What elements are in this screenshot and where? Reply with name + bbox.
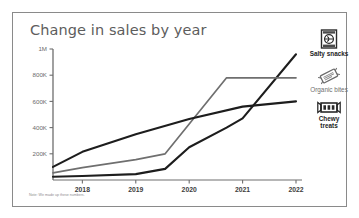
x-axis-ticks: 20182019202020212022 bbox=[75, 180, 304, 193]
y-axis-tick-label: 400K bbox=[33, 124, 48, 131]
legend-item-organic-bites[interactable]: Organic bites bbox=[298, 67, 359, 93]
x-axis-tick-label: 2018 bbox=[75, 186, 90, 193]
legend-item-label: Organic bites bbox=[298, 86, 359, 93]
y-axis-tick-label: 800K bbox=[33, 71, 48, 78]
chart-series bbox=[53, 54, 296, 176]
y-axis-tick-label: 600K bbox=[33, 98, 48, 105]
legend-item-chewy-treats[interactable]: Chewy treats bbox=[298, 101, 359, 130]
series-line-chewy-treats bbox=[53, 101, 296, 166]
chart-footnote: Note: We made up these numbers. bbox=[29, 193, 85, 197]
x-axis-tick-label: 2019 bbox=[128, 186, 143, 193]
chart-axes bbox=[53, 49, 302, 180]
y-axis-tick-label: 200K bbox=[33, 150, 48, 157]
series-line-salty-snacks bbox=[53, 54, 296, 176]
x-axis-tick-label: 2021 bbox=[235, 186, 250, 193]
y-axis-tick-label: 1M bbox=[38, 45, 47, 52]
snack-bag-icon bbox=[320, 29, 338, 49]
candy-wrapper-icon bbox=[317, 101, 341, 114]
y-axis-ticks: 200K400K600K800K1M bbox=[33, 45, 53, 157]
series-line-organic-bites bbox=[53, 78, 296, 173]
legend-item-label: Chewy treats bbox=[298, 115, 359, 130]
granola-bar-icon bbox=[318, 67, 340, 85]
x-axis-tick-label: 2022 bbox=[288, 186, 303, 193]
x-axis-tick-label: 2020 bbox=[182, 186, 197, 193]
legend-item-label: Salty snacks bbox=[298, 50, 359, 57]
legend-item-salty-snacks[interactable]: Salty snacks bbox=[298, 29, 359, 57]
chart-card: Change in sales by year 200K400K600K800K… bbox=[12, 12, 347, 207]
